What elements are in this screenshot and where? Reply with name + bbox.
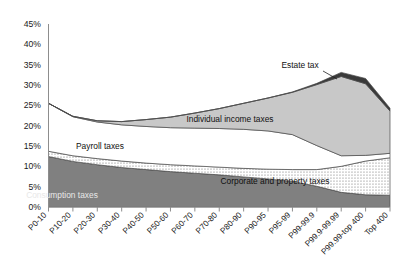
series-label-payroll-taxes: Payroll taxes bbox=[76, 141, 124, 151]
series-label-individual-income-taxes: Individual income taxes bbox=[186, 114, 273, 124]
y-tick-label: 0% bbox=[29, 202, 42, 212]
y-tick-label: 30% bbox=[24, 80, 42, 90]
y-tick-label: 35% bbox=[24, 60, 42, 70]
y-tick-label: 10% bbox=[24, 161, 42, 171]
series-label-estate-tax: Estate tax bbox=[281, 60, 319, 70]
series-label-corporate-and-property-taxes: Corporate and property taxes bbox=[221, 176, 330, 186]
stacked-area-chart: 0%5%10%15%20%25%30%35%40%45% P0-10P10-20… bbox=[0, 0, 406, 279]
y-tick-label: 25% bbox=[24, 100, 42, 110]
y-tick-label: 45% bbox=[24, 19, 42, 29]
series-label-consumption-taxes: Consumption taxes bbox=[26, 190, 98, 200]
y-tick-label: 20% bbox=[24, 121, 42, 131]
y-tick-label: 40% bbox=[24, 39, 42, 49]
chart-canvas: 0%5%10%15%20%25%30%35%40%45% P0-10P10-20… bbox=[0, 0, 406, 279]
y-tick-label: 15% bbox=[24, 141, 42, 151]
